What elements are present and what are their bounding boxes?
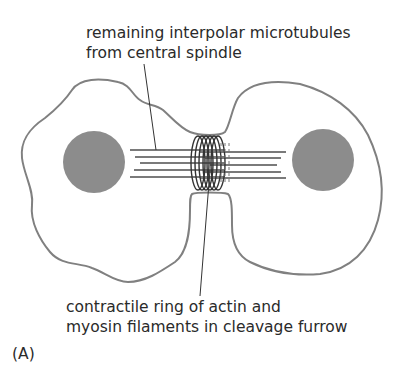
panel-label: (A) bbox=[12, 345, 35, 363]
bottom-leader-line bbox=[200, 170, 210, 296]
top-leader-line bbox=[144, 64, 156, 150]
right-nucleus bbox=[292, 129, 354, 191]
left-nucleus bbox=[63, 131, 125, 193]
bottom-label-line1: contractile ring of actin and bbox=[66, 298, 281, 316]
top-label-line2: from central spindle bbox=[86, 44, 242, 62]
top-label-line1: remaining interpolar microtubules bbox=[86, 24, 351, 42]
bottom-label-line2: myosin filaments in cleavage furrow bbox=[66, 318, 347, 336]
